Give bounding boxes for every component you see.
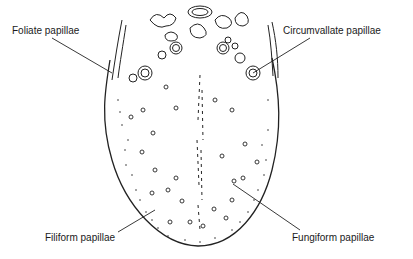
label-fungiform-papillae: Fungiform papillae xyxy=(292,232,374,243)
tongue-diagram: Foliate papillae Circumvallate papillae … xyxy=(0,0,413,259)
tongue-illustration xyxy=(0,0,413,259)
label-circumvallate-papillae: Circumvallate papillae xyxy=(283,25,381,36)
leader-circumvallate xyxy=(253,38,310,73)
tongue-outline xyxy=(105,58,279,246)
label-filiform-papillae: Filiform papillae xyxy=(45,232,115,243)
label-foliate-papillae: Foliate papillae xyxy=(12,25,79,36)
leader-filiform xyxy=(118,210,155,232)
leader-foliate xyxy=(52,38,112,73)
leader-fungiform xyxy=(233,184,300,230)
